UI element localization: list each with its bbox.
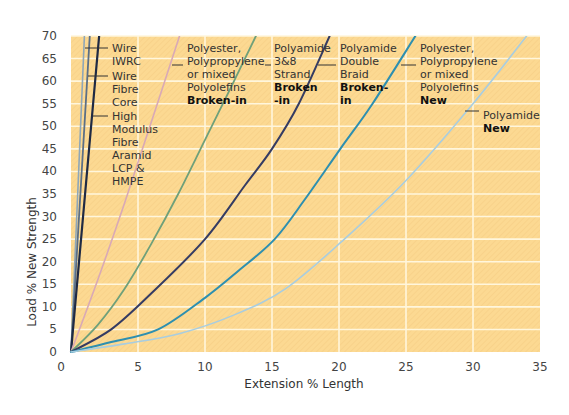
y-tick-label: 55	[42, 97, 57, 111]
x-tick-label: 0	[57, 360, 65, 374]
annotation-text: Polyamide	[483, 109, 540, 122]
annotation-text: HMPE	[112, 175, 143, 188]
annotation-text: -in	[274, 94, 290, 107]
annotation-text: Wire	[112, 42, 137, 55]
annotation-text: Polyamide	[340, 42, 397, 55]
y-tick-label: 70	[42, 29, 57, 43]
annotation-text: Polyester,	[420, 42, 474, 55]
y-tick-label: 0	[49, 345, 57, 359]
y-tick-label: 50	[42, 119, 57, 133]
y-axis-label: Load % New Strength	[25, 197, 39, 327]
annotation-text: Double	[340, 55, 379, 68]
annotation-text: Aramid	[112, 149, 152, 162]
annotation-text: Wire	[112, 70, 137, 83]
annotation-text: Polyolefins	[420, 81, 479, 94]
annotation-text: High	[112, 110, 137, 123]
x-tick-label: 5	[134, 360, 142, 374]
y-tick-label: 45	[42, 142, 57, 156]
annotation-text: Braid	[340, 68, 369, 81]
y-tick-label: 60	[42, 74, 57, 88]
annotation-text: Polypropylene	[420, 55, 498, 68]
annotation-text: New	[420, 94, 447, 107]
y-axis-ticks: 0510152025303540455055606570	[42, 29, 57, 359]
annotation-text: Strand	[274, 68, 311, 81]
y-tick-label: 35	[42, 187, 57, 201]
annotation-text: or mixed	[420, 68, 468, 81]
y-tick-label: 15	[42, 277, 57, 291]
annotation-text: 3&8	[274, 55, 297, 68]
annotation-text: Polyamide	[274, 42, 331, 55]
x-tick-label: 10	[197, 360, 212, 374]
y-tick-label: 40	[42, 164, 57, 178]
annotation-text: Fibre	[112, 83, 139, 96]
annotation-text: Modulus	[112, 123, 158, 136]
x-tick-label: 15	[264, 360, 279, 374]
x-tick-label: 20	[331, 360, 346, 374]
y-tick-label: 5	[49, 322, 57, 336]
annotation-text: Core	[112, 96, 138, 109]
y-tick-label: 65	[42, 52, 57, 66]
load-extension-chart: WireIWRCWireFibreCoreHighModulusFibreAra…	[0, 0, 569, 415]
y-tick-label: 20	[42, 255, 57, 269]
x-tick-label: 35	[532, 360, 547, 374]
annotation-text: IWRC	[112, 55, 141, 68]
y-tick-label: 10	[42, 300, 57, 314]
annotation-text: or mixed	[187, 68, 235, 81]
annotation-text: Broken	[274, 81, 318, 94]
annotation-text: Polyolefins	[187, 81, 246, 94]
x-axis-ticks: 05101520253035	[57, 360, 547, 374]
y-tick-label: 25	[42, 232, 57, 246]
annotation-text: Broken-in	[187, 94, 247, 107]
annotation-text: LCP &	[112, 162, 145, 175]
annotation-text: Polyester,	[187, 42, 241, 55]
y-tick-label: 30	[42, 210, 57, 224]
annotation-text: Polypropylene	[187, 55, 265, 68]
x-axis-label: Extension % Length	[244, 377, 363, 391]
annotation-text: Broken-	[340, 81, 388, 94]
x-tick-label: 25	[398, 360, 413, 374]
annotation-text: New	[483, 122, 510, 135]
x-tick-label: 30	[465, 360, 480, 374]
annotation-text: in	[340, 94, 352, 107]
annotation-text: Fibre	[112, 136, 139, 149]
